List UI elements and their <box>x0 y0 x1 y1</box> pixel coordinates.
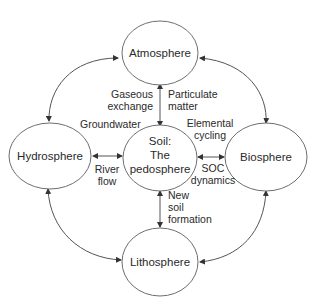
node-hydrosphere-label: Hydrosphere <box>17 150 83 162</box>
label-river-line-2: flow <box>98 175 117 187</box>
node-biosphere-label: Biosphere <box>240 151 292 163</box>
label-new-soil-line-1: New <box>168 189 189 201</box>
node-soil-label-line-3: pedosphere <box>130 163 191 175</box>
label-particulate-line-2: matter <box>168 100 198 112</box>
node-lithosphere: Lithosphere <box>122 228 198 296</box>
node-soil: Soil: The pedosphere <box>123 125 197 191</box>
edge-biosphere-lithosphere <box>200 191 266 262</box>
label-elemental-line-1: Elemental <box>187 117 234 129</box>
node-atmosphere-label: Atmosphere <box>129 47 191 59</box>
label-gaseous-line-1: Gaseous <box>111 88 153 100</box>
label-elemental-line-2: cycling <box>194 129 226 141</box>
soil-spheres-diagram: Atmosphere Hydrosphere Soil: The pedosph… <box>0 0 310 304</box>
label-particulate-line-1: Particulate <box>168 88 218 100</box>
node-atmosphere: Atmosphere <box>122 21 198 85</box>
node-lithosphere-label: Lithosphere <box>130 256 190 268</box>
edge-hydrosphere-lithosphere <box>48 189 121 260</box>
label-soc-line-1: SOC <box>202 162 225 174</box>
node-soil-label-line-2: The <box>150 149 170 161</box>
node-soil-label-line-1: Soil: <box>149 135 171 147</box>
label-new-soil-line-2: soil <box>168 201 184 213</box>
label-gaseous-line-2: exchange <box>107 100 153 112</box>
label-soc-line-2: dynamics <box>191 174 235 186</box>
label-groundwater: Groundwater <box>80 118 141 130</box>
node-biosphere: Biosphere <box>225 123 307 191</box>
label-new-soil-line-3: formation <box>168 213 212 225</box>
label-river-line-1: River <box>95 163 120 175</box>
node-hydrosphere: Hydrosphere <box>9 123 91 189</box>
